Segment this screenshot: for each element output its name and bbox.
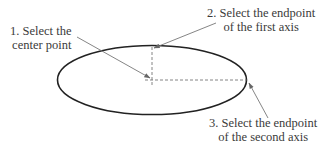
arrow-center-point (77, 37, 150, 78)
ellipse-construction-diagram: 1. Select the center point 2. Select the… (0, 0, 333, 151)
step-3-line-1: 3. Select the endpoint (209, 116, 317, 130)
arrow-second-axis-endpoint (249, 83, 268, 118)
step-1-line-1: 1. Select the (10, 24, 71, 38)
step-3-label: 3. Select the endpoint of the second axi… (209, 116, 317, 144)
step-1-line-2: center point (10, 38, 71, 52)
step-2-label: 2. Select the endpoint of the first axis (207, 6, 315, 34)
step-1-label: 1. Select the center point (10, 24, 71, 52)
step-3-line-2: of the second axis (209, 130, 317, 144)
step-2-line-1: 2. Select the endpoint (207, 6, 315, 20)
step-2-line-2: of the first axis (207, 20, 315, 34)
